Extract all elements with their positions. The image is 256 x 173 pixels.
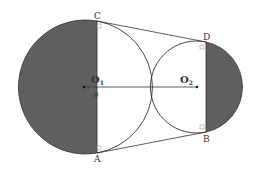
tangent-line-AB — [97, 132, 206, 153]
right-angle-marker-D — [200, 45, 204, 49]
right-angle-marker-B — [200, 125, 204, 129]
label-O2: O2 — [180, 74, 193, 86]
tangent-circles-diagram: C A D B O1 O2 θ — [0, 0, 256, 173]
label-A: A — [93, 154, 101, 164]
label-D: D — [203, 32, 210, 42]
center-O2-dot — [196, 86, 198, 88]
label-B: B — [203, 134, 210, 144]
center-O1-dot — [83, 86, 85, 88]
right-angle-marker-C — [97, 24, 101, 28]
right-angle-marker-A — [97, 146, 101, 150]
label-O1: O1 — [91, 74, 104, 86]
tangent-line-CD — [97, 21, 206, 42]
label-C: C — [94, 11, 101, 21]
diagram-canvas: C A D B O1 O2 θ — [0, 0, 256, 173]
label-theta: θ — [94, 92, 99, 100]
shaded-region-circle2 — [206, 42, 242, 132]
